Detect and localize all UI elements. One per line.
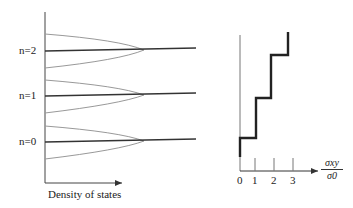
tick-0: 0 bbox=[237, 175, 243, 186]
tick-2: 2 bbox=[271, 175, 277, 186]
hall-staircase bbox=[240, 32, 288, 157]
sigma-0: σ0 bbox=[321, 170, 343, 181]
tick-1: 1 bbox=[252, 175, 258, 186]
level-label-n1: n=1 bbox=[19, 90, 36, 101]
axis-ticks bbox=[255, 158, 293, 171]
sigma-xy: σxy bbox=[321, 158, 343, 170]
tick-3: 3 bbox=[290, 175, 296, 186]
level-label-n0: n=0 bbox=[19, 136, 36, 147]
level-label-n2: n=2 bbox=[19, 45, 36, 56]
conductance-axis-label: σxy σ0 bbox=[321, 158, 343, 181]
landau-levels-diagram bbox=[0, 0, 353, 208]
dos-axis-label: Density of states bbox=[48, 189, 121, 200]
